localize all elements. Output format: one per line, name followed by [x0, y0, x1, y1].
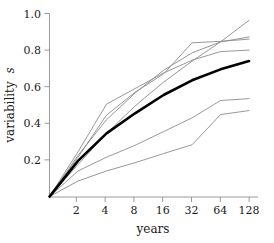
x-tick-label-64: 64	[213, 204, 227, 217]
y-tick-label-0.8: 0.8	[24, 44, 42, 57]
x-tick-label-128: 128	[239, 204, 260, 217]
y-axis-title-text: variability s	[3, 67, 17, 143]
chart-figure: 1.0 0.8 0.6 0.4 0.2 2 4 8 16 32 64 128	[0, 0, 274, 243]
x-tick-label-2: 2	[73, 204, 80, 217]
y-tick-label-0.4: 0.4	[24, 117, 42, 130]
x-tick-label-4: 4	[102, 204, 109, 217]
y-tick-label-0.6: 0.6	[24, 81, 42, 94]
x-tick-label-16: 16	[156, 204, 170, 217]
x-axis-title: years	[136, 222, 170, 236]
y-tick-label-1.0: 1.0	[24, 8, 42, 21]
y-axis-title-symbol: s	[3, 67, 17, 73]
y-axis-title-main: variability	[3, 81, 17, 144]
y-tick-label-0.2: 0.2	[24, 154, 42, 167]
variability-line-chart: 1.0 0.8 0.6 0.4 0.2 2 4 8 16 32 64 128	[0, 0, 274, 243]
x-tick-label-32: 32	[185, 204, 199, 217]
y-axis-title: variability s	[3, 67, 17, 143]
x-tick-label-8: 8	[130, 204, 137, 217]
